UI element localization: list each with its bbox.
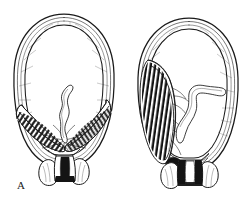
uterus-diagram-b xyxy=(125,0,250,207)
figure-root: A xyxy=(0,0,250,207)
panel-a: A xyxy=(0,0,125,207)
umbilical-cord-a xyxy=(60,85,73,143)
uterus-diagram-a xyxy=(0,0,125,207)
panel-label-a: A xyxy=(17,180,25,191)
panel-b: B xyxy=(125,0,250,207)
